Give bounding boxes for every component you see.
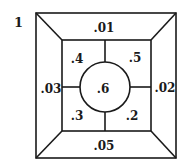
region-left-label: .03	[41, 82, 62, 96]
region-bottom-label: .05	[94, 139, 115, 153]
diagonal-bottom-left	[36, 131, 62, 158]
region-right-label: .02	[155, 81, 176, 95]
region-inner-bottom-right-label: .2	[126, 109, 139, 123]
diagonal-bottom-right	[151, 131, 176, 158]
region-inner-top-right-label: .5	[129, 51, 142, 65]
region-inner-bottom-left-label: .3	[71, 109, 84, 123]
region-inner-top-left-label: .4	[71, 52, 84, 66]
figure-number: 1	[14, 15, 23, 30]
region-center-label: .6	[97, 82, 110, 96]
diagonal-top-right	[151, 13, 176, 40]
diagram-canvas: 1 .01 .02 .03 .05 .4 .5 .3 .2 .6	[0, 0, 186, 163]
region-top-label: .01	[94, 21, 115, 35]
diagonal-top-left	[36, 13, 62, 40]
